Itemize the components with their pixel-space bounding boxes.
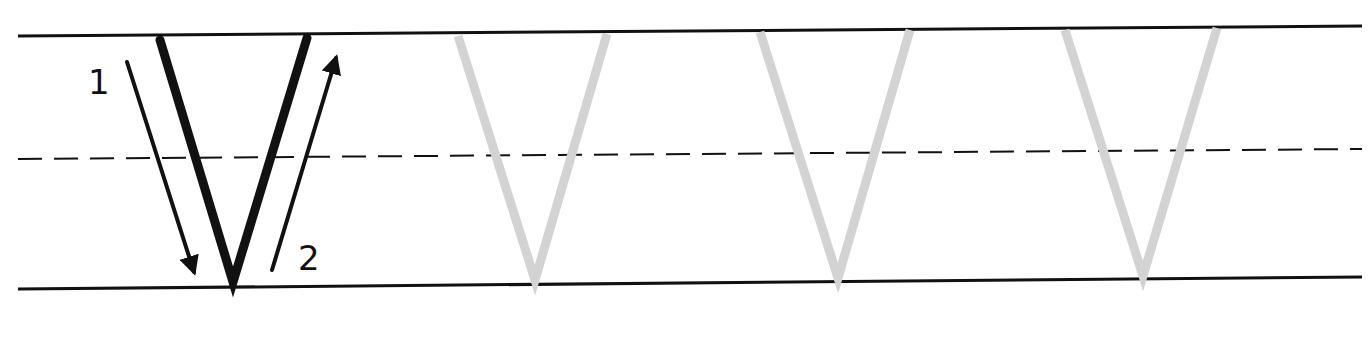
tracing-letters [458, 28, 1217, 280]
model-letter-v [160, 38, 307, 282]
stroke-number-1: 1 [88, 62, 110, 102]
baseline-guide [18, 277, 1362, 289]
letter-v-practice-sheet: 12 [0, 0, 1372, 337]
top-guide-line [18, 26, 1362, 36]
stroke-number-2: 2 [298, 238, 320, 278]
midline-dashed-guide [18, 149, 1362, 159]
stroke-order-arrows: 12 [88, 58, 336, 278]
trace-letter-v-1 [458, 34, 607, 280]
trace-letter-v-3 [1065, 28, 1217, 276]
stroke-arrow-1-icon [127, 62, 194, 272]
